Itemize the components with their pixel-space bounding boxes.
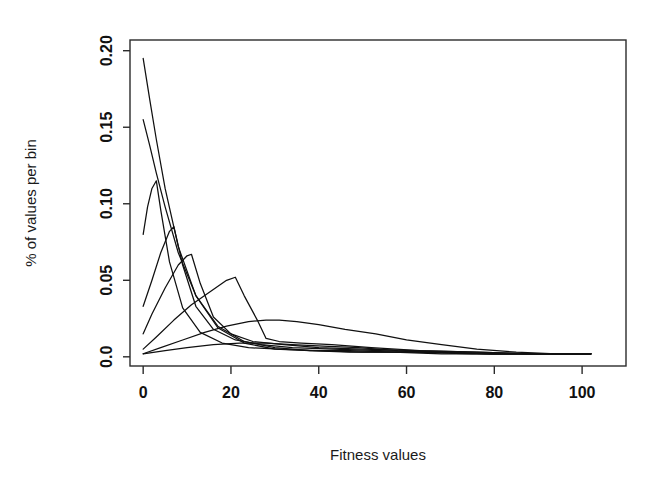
y-tick-label: 0.05 [98, 265, 115, 296]
x-tick-label: 80 [485, 384, 503, 401]
y-tick-label: 0.0 [98, 346, 115, 368]
y-axis-title: % of values per bin [22, 139, 39, 267]
y-tick-label: 0.15 [98, 112, 115, 143]
y-tick-label: 0.10 [98, 188, 115, 219]
x-tick-label: 100 [569, 384, 596, 401]
x-tick-label: 40 [310, 384, 328, 401]
x-axis-title: Fitness values [330, 446, 426, 463]
x-tick-label: 0 [139, 384, 148, 401]
fitness-distribution-chart: 0.00.050.100.150.20 020406080100 Fitness… [0, 0, 655, 489]
x-tick-label: 60 [398, 384, 416, 401]
x-tick-label: 20 [222, 384, 240, 401]
y-tick-label: 0.20 [98, 35, 115, 66]
